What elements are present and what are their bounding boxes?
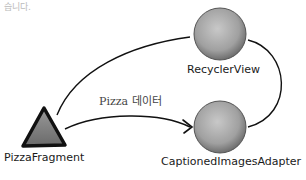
edge-recycler-adapter [248, 40, 281, 127]
cropped-header-text: 습니다. [4, 0, 31, 13]
recycler-node-circle [194, 8, 246, 60]
fragment-node-triangle [23, 108, 65, 146]
adapter-label: CaptionedImagesAdapter [161, 155, 301, 168]
fragment-label: PizzaFragment [4, 151, 84, 164]
adapter-node-circle [194, 101, 246, 153]
diagram: 습니다. RecyclerView CaptionedImagesAdap [0, 0, 306, 180]
edge-fragment-adapter [65, 116, 190, 129]
recycler-label: RecyclerView [187, 63, 260, 76]
edge-label-pizza-data: Pizza 데이터 [99, 92, 162, 108]
